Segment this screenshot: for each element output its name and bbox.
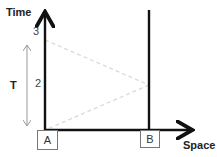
tick-label-3: 3 xyxy=(33,26,39,37)
time-axis-label: Time xyxy=(6,7,31,18)
spacetime-diagram xyxy=(0,0,217,157)
light-signal-return xyxy=(45,85,149,130)
observer-b-box: B xyxy=(140,130,160,148)
tick-label-2: 2 xyxy=(35,78,41,89)
space-axis-label: Space xyxy=(183,140,215,151)
observer-a-box: A xyxy=(37,130,58,150)
light-signal-out xyxy=(45,40,149,85)
interval-label: T xyxy=(10,80,17,91)
